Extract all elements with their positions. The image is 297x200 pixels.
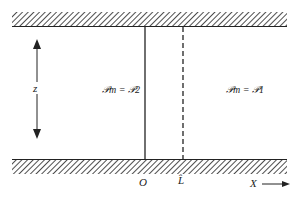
bottom-wall-hatch	[12, 160, 287, 174]
top-wall-hatch	[12, 12, 287, 26]
channel-diagram	[0, 0, 297, 200]
region-right-label: 𝒫m = 𝒫1	[226, 84, 264, 96]
x-axis-label: X	[250, 177, 257, 189]
L-label: L̂	[178, 174, 184, 186]
arrow-down-icon	[33, 129, 41, 139]
arrow-right-icon	[282, 181, 290, 187]
origin-label: O	[139, 176, 147, 188]
arrow-up-icon	[33, 39, 41, 49]
region-left-label: 𝒫m = 𝒫2	[102, 84, 140, 96]
z-label: z	[33, 82, 37, 94]
